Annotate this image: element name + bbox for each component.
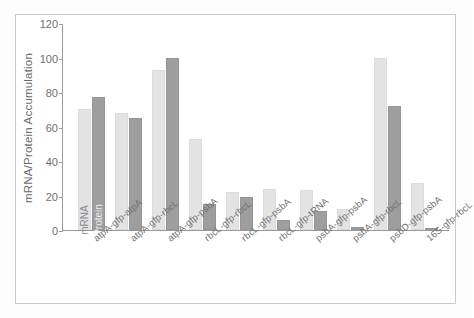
- y-tick-label: 100: [40, 53, 58, 64]
- bar-group: [258, 24, 295, 230]
- y-tick-label: 60: [46, 122, 58, 133]
- bar-mrna[interactable]: mRNA: [78, 109, 91, 230]
- bar-protein[interactable]: Protein: [92, 97, 105, 230]
- y-tick-mark: [59, 231, 63, 232]
- x-axis-labels: atpA-gfp-atpAatpA-gfp-rbcLatpA-gfp-psbAr…: [62, 233, 449, 295]
- y-tick-label: 20: [46, 191, 58, 202]
- x-tick-label: rbcL-gfp-rbcL: [183, 233, 220, 295]
- bar-group: [110, 24, 147, 230]
- y-tick-label: 120: [40, 19, 58, 30]
- bar-group: mRNAProtein: [73, 24, 110, 230]
- x-tick-label: atpA-gfp-atpA: [72, 233, 109, 295]
- x-tick-label: rbcL-gfp-tRNA: [257, 233, 294, 295]
- bar-group: [221, 24, 258, 230]
- x-tick-label: psbD-gfp-psbA: [369, 233, 406, 295]
- y-axis-title: mRNA/Protein Accumulation: [20, 24, 36, 231]
- x-tick-label: atpA-gfp-rbcL: [109, 233, 146, 295]
- x-tick-label: psbA-gfp-psbA: [295, 233, 332, 295]
- x-tick-label: rbcL-gfp-psbA: [220, 233, 257, 295]
- legend-label-mrna: mRNA: [80, 205, 90, 234]
- y-tick-label: 80: [46, 88, 58, 99]
- x-tick-label: 16S-gfp-rbcL: [406, 233, 443, 295]
- y-tick-label: 40: [46, 157, 58, 168]
- x-tick-label: atpA-gfp-psbA: [146, 233, 183, 295]
- bar-group: [147, 24, 184, 230]
- x-tick-label: psbA-gfp-rbcL: [332, 233, 369, 295]
- y-tick-label: 0: [52, 226, 58, 237]
- bar-group: [369, 24, 406, 230]
- y-axis-title-label: mRNA/Protein Accumulation: [22, 52, 34, 202]
